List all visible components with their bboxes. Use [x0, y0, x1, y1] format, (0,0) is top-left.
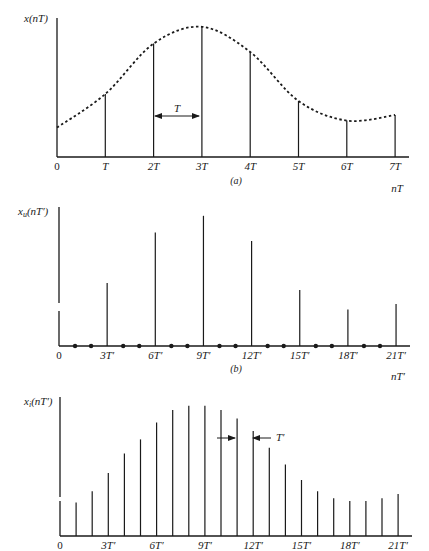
figure-canvas — [0, 0, 429, 551]
panel-a — [57, 18, 409, 157]
panel-b-zero-sample-dot — [169, 344, 173, 348]
panel-c-tick-label: 3T′ — [101, 539, 115, 551]
panel-c-tick-label: 6T′ — [150, 539, 164, 551]
panel-b-tick-label: 18T′ — [338, 349, 358, 361]
panel-b-zero-sample-dot — [362, 344, 366, 348]
panel-b-tick-label: 21T′ — [386, 349, 406, 361]
panel-b-zero-sample-dot — [217, 344, 221, 348]
panel-a-tick-label: T — [102, 160, 108, 172]
panel-c-interval-label: T′ — [276, 431, 285, 443]
panel-b-stems — [73, 216, 396, 348]
panel-a-y-label: x(nT) — [24, 12, 48, 24]
panel-a-tick-label: 6T — [341, 160, 353, 172]
panel-b-y-label-rest: (nT′) — [27, 205, 48, 217]
panel-a-tick-label: 3T — [196, 160, 208, 172]
panel-a-tick-label: 5T — [293, 160, 305, 172]
panel-c-tick-label: 12T′ — [243, 539, 263, 551]
panel-b-tick-label: 9T′ — [196, 349, 210, 361]
panel-a-interval-label: T — [174, 102, 180, 114]
panel-a-tick-label: 7T — [389, 160, 401, 172]
panel-b-zero-sample-dot — [73, 344, 77, 348]
panel-a-x-label: nT — [391, 182, 403, 194]
panel-a-tick-label: 2T — [148, 160, 160, 172]
panel-c-tick-label: 15T′ — [292, 539, 312, 551]
panel-c-stems — [76, 406, 398, 536]
panel-b-y-label: xu(nT′) — [18, 205, 48, 219]
panel-b-zero-sample-dot — [282, 344, 286, 348]
panel-b-caption: (b) — [230, 363, 242, 374]
panel-b-zero-sample-dot — [121, 344, 125, 348]
panel-a-zero-label: 0 — [54, 160, 60, 172]
panel-c-y-label-rest: (nT′) — [31, 395, 52, 407]
panel-c-tick-label: 21T′ — [388, 539, 408, 551]
panel-b-zero-sample-dot — [233, 344, 237, 348]
panel-b-zero-sample-dot — [265, 344, 269, 348]
panel-c — [60, 397, 412, 536]
panel-b-zero-sample-dot — [330, 344, 334, 348]
panel-b-tick-label: 6T′ — [148, 349, 162, 361]
panel-b-tick-label: 3T′ — [100, 349, 114, 361]
panel-b-tick-label: 15T′ — [290, 349, 310, 361]
panel-c-tick-label: 9T′ — [198, 539, 212, 551]
panel-b-zero-sample-dot — [314, 344, 318, 348]
panel-c-zero-label: 0 — [57, 539, 63, 551]
panel-b-tick-label: 12T′ — [242, 349, 262, 361]
panel-c-y-label: xi(nT′) — [24, 395, 52, 409]
panel-c-tick-label: 18T′ — [340, 539, 360, 551]
panel-a-tick-label: 4T — [244, 160, 256, 172]
panel-a-envelope-curve — [57, 27, 395, 128]
panel-b — [59, 207, 410, 348]
panel-b-zero-sample-dot — [185, 344, 189, 348]
panel-b-zero-sample-dot — [137, 344, 141, 348]
panel-a-caption: (a) — [230, 175, 242, 186]
panel-b-zero-sample-dot — [89, 344, 93, 348]
panel-a-stems — [105, 27, 395, 157]
panel-b-zero-label: 0 — [56, 349, 62, 361]
panel-b-x-label: nT′ — [391, 370, 405, 382]
panel-b-zero-sample-dot — [378, 344, 382, 348]
